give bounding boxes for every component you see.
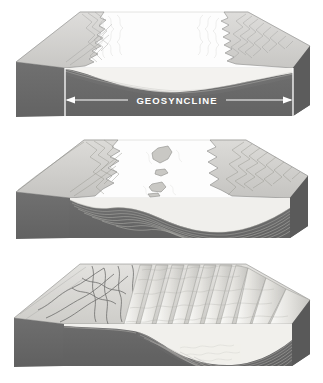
- landmass-right-1: [221, 12, 310, 68]
- panel-stage-3: [0, 248, 323, 383]
- island-4: [148, 193, 160, 197]
- landmass-right-2: [207, 140, 308, 198]
- panel-stage-2: [0, 126, 323, 250]
- geosyncline-label: GEOSYNCLINE: [136, 95, 217, 106]
- geosyncline-figure: GEOSYNCLINE: [0, 0, 323, 383]
- panel-stage-1: GEOSYNCLINE: [0, 0, 323, 128]
